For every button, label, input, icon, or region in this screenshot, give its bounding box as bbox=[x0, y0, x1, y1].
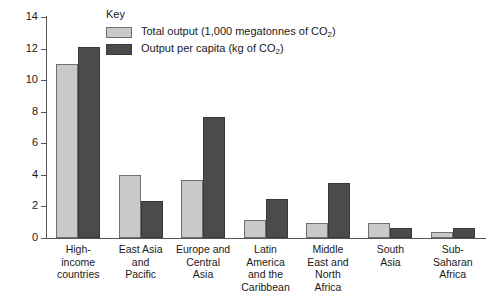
category-label-line: Asia bbox=[359, 256, 421, 269]
bar-output-per-capita bbox=[78, 47, 100, 238]
legend-entry: Total output (1,000 megatonnes of CO2) bbox=[106, 25, 336, 39]
category-label: LatinAmericaand theCaribbean bbox=[234, 243, 296, 293]
legend-label: Total output (1,000 megatonnes of CO2) bbox=[141, 25, 336, 39]
bar-total-output bbox=[181, 180, 203, 238]
category-label-line: and the bbox=[234, 268, 296, 281]
category-label-line: Central bbox=[172, 256, 234, 269]
y-tick-mark bbox=[41, 143, 47, 144]
y-tick-mark bbox=[41, 49, 47, 50]
bar-total-output bbox=[306, 223, 328, 238]
bar-total-output bbox=[244, 220, 266, 238]
bar-output-per-capita bbox=[390, 228, 412, 238]
category-label-line: East Asia bbox=[109, 243, 171, 256]
light-swatch bbox=[106, 27, 132, 38]
category-label-line: Saharan bbox=[422, 256, 484, 269]
y-tick-label: 10 bbox=[26, 73, 38, 86]
x-axis-line bbox=[46, 238, 486, 239]
category-label: High-incomecountries bbox=[47, 243, 109, 281]
y-tick-mark bbox=[41, 206, 47, 207]
category-label: SouthAsia bbox=[359, 243, 421, 268]
dark-swatch bbox=[106, 44, 132, 55]
category-label-line: income bbox=[47, 256, 109, 269]
bar-output-per-capita bbox=[203, 117, 225, 238]
category-label-line: Caribbean bbox=[234, 281, 296, 294]
bar-group bbox=[56, 17, 100, 238]
bar-output-per-capita bbox=[453, 228, 475, 238]
category-label-line: Sub- bbox=[422, 243, 484, 256]
y-tick-label: 14 bbox=[26, 10, 38, 23]
legend-entries: Total output (1,000 megatonnes of CO2)Ou… bbox=[106, 25, 336, 56]
category-label: East AsiaandPacific bbox=[109, 243, 171, 281]
y-tick-label: 6 bbox=[32, 136, 38, 149]
x-axis-category-labels: High-incomecountriesEast AsiaandPacificE… bbox=[47, 243, 484, 299]
bar-total-output bbox=[368, 223, 390, 238]
category-label: Europe andCentralAsia bbox=[172, 243, 234, 281]
bar-output-per-capita bbox=[266, 199, 288, 238]
bar-output-per-capita bbox=[141, 201, 163, 238]
category-label-line: North bbox=[297, 268, 359, 281]
y-tick-label: 4 bbox=[32, 168, 38, 181]
legend-label: Output per capita (kg of CO2) bbox=[141, 42, 284, 56]
category-label-line: Latin bbox=[234, 243, 296, 256]
bar-total-output bbox=[119, 175, 141, 238]
y-tick-mark bbox=[41, 112, 47, 113]
bar-group bbox=[368, 17, 412, 238]
category-label-line: South bbox=[359, 243, 421, 256]
bar-group bbox=[431, 17, 475, 238]
bar-chart: 02468101214 High-incomecountriesEast Asi… bbox=[0, 0, 493, 299]
category-label: Sub-SaharanAfrica bbox=[422, 243, 484, 281]
y-tick-mark bbox=[41, 17, 47, 18]
category-label-line: America bbox=[234, 256, 296, 269]
y-tick-mark bbox=[41, 175, 47, 176]
category-label-line: High- bbox=[47, 243, 109, 256]
category-label-line: Europe and bbox=[172, 243, 234, 256]
category-label-line: East and bbox=[297, 256, 359, 269]
category-label: MiddleEast andNorthAfrica bbox=[297, 243, 359, 293]
y-tick-label: 12 bbox=[26, 42, 38, 55]
bar-output-per-capita bbox=[328, 183, 350, 238]
category-label-line: Africa bbox=[297, 281, 359, 294]
legend: Key Total output (1,000 megatonnes of CO… bbox=[106, 8, 336, 59]
y-tick-label: 0 bbox=[32, 231, 38, 244]
category-label-line: Pacific bbox=[109, 268, 171, 281]
y-tick-label: 8 bbox=[32, 105, 38, 118]
y-tick-mark bbox=[41, 80, 47, 81]
category-label-line: countries bbox=[47, 268, 109, 281]
bar-total-output bbox=[431, 232, 453, 238]
category-label-line: Africa bbox=[422, 268, 484, 281]
category-label-line: Middle bbox=[297, 243, 359, 256]
legend-title: Key bbox=[106, 8, 336, 21]
category-label-line: and bbox=[109, 256, 171, 269]
category-label-line: Asia bbox=[172, 268, 234, 281]
y-tick-label: 2 bbox=[32, 199, 38, 212]
bar-total-output bbox=[56, 64, 78, 238]
y-tick-mark bbox=[41, 238, 47, 239]
legend-entry: Output per capita (kg of CO2) bbox=[106, 42, 336, 56]
